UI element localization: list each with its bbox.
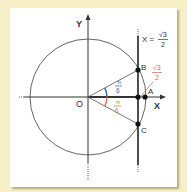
point-b — [135, 67, 140, 72]
point-b-label: B — [141, 63, 146, 72]
angle-label-upper: π 6 — [115, 79, 122, 94]
angle-arc-upper — [105, 88, 107, 97]
svg-text:6: 6 — [116, 87, 120, 94]
eq-numerator: √3 — [159, 31, 167, 38]
point-projection — [135, 94, 140, 99]
x-axis-arrow-icon — [160, 95, 166, 100]
eq-denominator: 2 — [161, 41, 165, 48]
point-a — [142, 94, 147, 99]
svg-text:π: π — [117, 79, 121, 85]
angle-arc-lower — [105, 97, 107, 106]
svg-text:X =: X = — [142, 35, 155, 44]
length-label: √3 2 — [152, 64, 162, 81]
x-axis-label: X — [154, 101, 160, 111]
length-denominator: 2 — [155, 74, 159, 81]
point-c-label: C — [141, 126, 147, 135]
angle-label-lower: π 6 — [114, 99, 121, 114]
radius-ob — [88, 70, 138, 97]
point-a-label: A — [148, 87, 154, 96]
y-axis-arrow-icon — [86, 14, 91, 20]
length-numerator: √3 — [153, 64, 161, 71]
point-c — [135, 121, 140, 126]
y-axis-label: Y — [76, 19, 82, 29]
origin-label: O — [76, 99, 83, 109]
vertical-line-equation: X = √3 2 — [142, 31, 168, 48]
svg-text:π: π — [116, 99, 120, 105]
svg-text:6: 6 — [115, 107, 119, 114]
radius-oc — [88, 97, 138, 124]
unit-circle-diagram: Y X O A B C X = √3 2 √3 2 π 6 π 6 — [0, 0, 187, 192]
